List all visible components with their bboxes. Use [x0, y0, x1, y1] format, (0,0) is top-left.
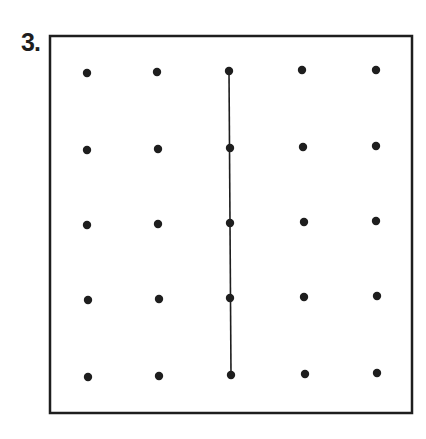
grid-dot-r1-c1 [154, 145, 162, 153]
grid-dot-r1-c0 [83, 146, 91, 154]
grid-dot-r3-c3 [300, 293, 308, 301]
grid-dot-r0-c1 [153, 68, 161, 76]
grid-dot-r1-c3 [299, 143, 307, 151]
dot-grid [83, 66, 381, 381]
grid-dot-r1-c2 [226, 144, 234, 152]
grid-dot-r2-c2 [226, 219, 234, 227]
grid-dot-r2-c4 [372, 217, 380, 225]
geoboard [0, 0, 426, 439]
grid-dot-r0-c2 [225, 67, 233, 75]
grid-dot-r4-c0 [84, 373, 92, 381]
grid-dot-r4-c4 [373, 369, 381, 377]
grid-dot-r0-c3 [298, 66, 306, 74]
grid-dot-r3-c2 [226, 294, 234, 302]
grid-dot-r4-c1 [155, 372, 163, 380]
grid-dot-r4-c3 [301, 370, 309, 378]
grid-dot-r0-c0 [83, 69, 91, 77]
grid-dot-r1-c4 [372, 142, 380, 150]
grid-dot-r3-c1 [155, 295, 163, 303]
grid-dot-r2-c0 [83, 221, 91, 229]
grid-dot-r0-c4 [372, 66, 380, 74]
grid-dot-r3-c0 [84, 296, 92, 304]
grid-dot-r4-c2 [227, 371, 235, 379]
grid-dot-r2-c1 [154, 220, 162, 228]
grid-dot-r3-c4 [373, 292, 381, 300]
grid-dot-r2-c3 [300, 218, 308, 226]
